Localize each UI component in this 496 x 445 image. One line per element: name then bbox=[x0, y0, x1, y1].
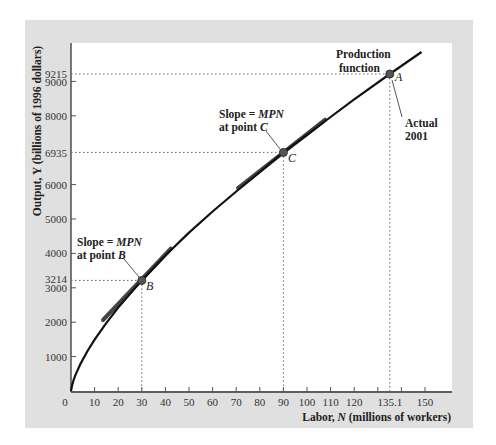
slope-c-label-line2: at point C bbox=[219, 121, 268, 134]
svg-text:9215: 9215 bbox=[45, 68, 68, 80]
svg-text:90: 90 bbox=[278, 396, 290, 408]
svg-text:3214: 3214 bbox=[45, 273, 68, 285]
point-c-marker bbox=[279, 148, 287, 156]
svg-text:10: 10 bbox=[89, 396, 101, 408]
svg-text:150: 150 bbox=[417, 396, 434, 408]
production-function-curve bbox=[71, 52, 422, 391]
actual-label: Actual bbox=[405, 117, 438, 129]
slope-b-label-line2: at point B bbox=[77, 249, 126, 262]
svg-text:110: 110 bbox=[323, 396, 340, 408]
point-a-marker bbox=[386, 70, 394, 78]
svg-text:5000: 5000 bbox=[45, 213, 68, 225]
svg-text:1000: 1000 bbox=[45, 351, 68, 363]
svg-text:8000: 8000 bbox=[45, 110, 68, 122]
point-c-label: C bbox=[288, 151, 297, 165]
svg-text:30: 30 bbox=[136, 396, 148, 408]
point-a-label: A bbox=[394, 70, 403, 84]
x-axis-title: Labor, N (millions of workers) bbox=[302, 411, 451, 424]
svg-text:2000: 2000 bbox=[45, 316, 68, 328]
svg-text:50: 50 bbox=[184, 396, 196, 408]
svg-text:6935: 6935 bbox=[45, 147, 68, 159]
actual-year-label: 2001 bbox=[405, 130, 428, 142]
production-function-chart: 1000 2000 3000 3214 4000 5000 6000 6935 … bbox=[0, 0, 496, 445]
x-tick-labels: 0 10 20 30 40 50 60 70 80 90 100 110 120… bbox=[62, 396, 434, 408]
svg-text:80: 80 bbox=[254, 396, 266, 408]
y-tick-labels: 1000 2000 3000 3214 4000 5000 6000 6935 … bbox=[45, 68, 68, 363]
svg-text:60: 60 bbox=[207, 396, 219, 408]
svg-text:70: 70 bbox=[231, 396, 243, 408]
slope-b-label: Slope = MPN bbox=[77, 236, 142, 249]
svg-text:4000: 4000 bbox=[45, 247, 68, 259]
slope-c-label: Slope = MPN bbox=[219, 108, 284, 121]
curve-label-line2: function bbox=[339, 62, 381, 74]
svg-text:20: 20 bbox=[113, 396, 125, 408]
point-b-marker bbox=[138, 276, 146, 284]
point-b-label: B bbox=[146, 279, 154, 293]
y-axis-title: Output, Y (billions of 1996 dollars) bbox=[31, 46, 44, 217]
svg-text:135.1: 135.1 bbox=[377, 396, 402, 408]
svg-text:100: 100 bbox=[299, 396, 316, 408]
svg-text:120: 120 bbox=[346, 396, 363, 408]
svg-text:6000: 6000 bbox=[45, 179, 68, 191]
y-ticks bbox=[71, 81, 76, 356]
svg-text:40: 40 bbox=[160, 396, 172, 408]
curve-label: Production bbox=[336, 48, 391, 60]
svg-text:0: 0 bbox=[62, 396, 68, 408]
x-ticks bbox=[95, 387, 425, 392]
